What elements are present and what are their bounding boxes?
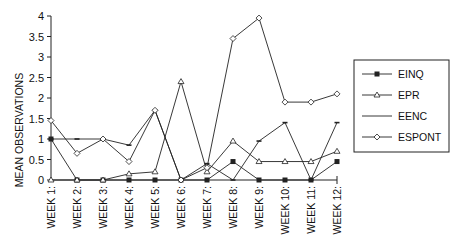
x-tick-label: WEEK 7: xyxy=(201,186,213,229)
series-einq xyxy=(49,137,340,183)
x-tick-label: WEEK 6: xyxy=(175,186,187,229)
plot-area: 00.511.522.533.54MEAN OBSERVATIONSWEEK 1… xyxy=(13,10,343,234)
square-marker-icon xyxy=(335,159,340,164)
diamond-marker-icon xyxy=(334,91,340,97)
legend: EINQEPREENCESPONT xyxy=(354,60,449,152)
x-tick-label: WEEK 3: xyxy=(97,186,109,229)
diamond-marker-icon xyxy=(308,99,314,105)
legend-label: EINQ xyxy=(398,68,424,80)
y-tick-label: 1 xyxy=(38,133,44,145)
legend-label: ESPONT xyxy=(398,131,442,143)
square-marker-icon xyxy=(283,178,288,183)
x-tick-label: WEEK 12: xyxy=(331,186,343,234)
triangle-marker-icon xyxy=(334,148,340,153)
square-marker-icon xyxy=(257,178,262,183)
x-tick-label: WEEK 8: xyxy=(227,186,239,229)
square-marker-icon xyxy=(375,72,380,77)
legend-label: EENC xyxy=(398,110,428,122)
x-tick-label: WEEK 9: xyxy=(253,186,265,229)
y-tick-label: 3 xyxy=(38,51,44,63)
series-epr xyxy=(48,79,340,182)
legend-label: EPR xyxy=(398,89,420,101)
y-tick-label: 1.5 xyxy=(29,113,44,125)
x-tick-label: WEEK 1: xyxy=(45,186,57,229)
diamond-marker-icon xyxy=(282,99,288,105)
y-tick-label: 0 xyxy=(38,174,44,186)
triangle-marker-icon xyxy=(230,138,236,143)
series-line xyxy=(51,82,337,180)
y-tick-label: 3.5 xyxy=(29,31,44,43)
triangle-marker-icon xyxy=(178,79,184,84)
x-tick-label: WEEK 11: xyxy=(305,186,317,234)
x-tick-label: WEEK 10: xyxy=(279,186,291,234)
y-tick-label: 0.5 xyxy=(29,154,44,166)
x-tick-label: WEEK 4: xyxy=(123,186,135,229)
triangle-marker-icon xyxy=(256,159,262,164)
y-axis-label: MEAN OBSERVATIONS xyxy=(13,73,25,187)
x-tick-label: WEEK 5: xyxy=(149,186,161,229)
line-chart: 00.511.522.533.54MEAN OBSERVATIONSWEEK 1… xyxy=(0,0,451,241)
triangle-marker-icon xyxy=(152,169,158,174)
square-marker-icon xyxy=(205,178,210,183)
y-tick-label: 2.5 xyxy=(29,72,44,84)
x-tick-label: WEEK 2: xyxy=(71,186,83,229)
series-line xyxy=(51,110,337,180)
series-line xyxy=(51,18,337,180)
square-marker-icon xyxy=(127,178,132,183)
square-marker-icon xyxy=(231,159,236,164)
y-tick-label: 4 xyxy=(38,10,44,22)
y-tick-label: 2 xyxy=(38,92,44,104)
triangle-marker-icon xyxy=(282,159,288,164)
series-espont xyxy=(48,15,340,183)
square-marker-icon xyxy=(153,178,158,183)
